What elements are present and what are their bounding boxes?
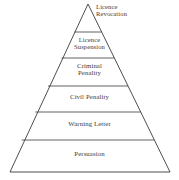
pyramid-tier-3-label: Criminal Penality (0, 62, 179, 77)
pyramid-tier-6-label: Persuasion (0, 150, 179, 157)
pyramid-tier-5-label: Warning Letter (0, 120, 179, 127)
pyramid-tier-2-label: Licence Suspension (0, 36, 179, 50)
pyramid-tier-1-label: Licence Revocation (96, 3, 176, 17)
pyramid-tier-4-label: Civil Penality (0, 93, 179, 100)
enforcement-pyramid-figure: Licence Revocation Licence Suspension Cr… (0, 0, 179, 180)
pyramid-outline (10, 4, 170, 172)
